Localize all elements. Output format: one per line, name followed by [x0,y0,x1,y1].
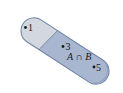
point-5-dot [93,66,96,69]
intersection-label: A ∩ B [66,51,91,62]
point-1-dot [24,26,27,29]
point-1-label: 1 [28,22,33,33]
point-3-dot [62,45,65,48]
point-5-label: 5 [96,62,101,73]
venn-diagram: 1 3 A ∩ B 5 [0,0,123,93]
